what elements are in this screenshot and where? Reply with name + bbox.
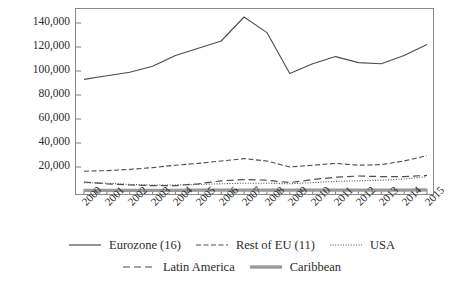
y-tick-label: 20,000 [14,160,70,172]
legend-item-latin-america[interactable]: Latin America [122,261,235,274]
y-axis-tick-labels: 20,00040,00060,00080,000100,000120,00014… [8,0,70,195]
chart-figure: Thousands of Euros 20,00040,00060,00080,… [0,0,463,286]
legend-label: USA [370,239,395,252]
y-tick-label: 100,000 [14,64,70,76]
legend-item-eurozone-16[interactable]: Eurozone (16) [68,239,181,252]
legend-row: Latin AmericaCaribbean [0,256,463,278]
y-tick-label: 80,000 [14,88,70,100]
legend-item-rest-of-eu-11[interactable]: Rest of EU (11) [195,239,315,252]
legend-swatch-dashed-icon [195,241,229,249]
legend-swatch-longdash-icon [122,263,156,271]
legend-swatch-thick-solid-icon [249,263,283,271]
legend-item-usa[interactable]: USA [329,239,395,252]
y-tick-label: 60,000 [14,112,70,124]
plot-area [75,8,434,195]
legend-swatch-solid-icon [68,241,102,249]
legend-label: Latin America [163,261,235,274]
legend-label: Caribbean [290,261,341,274]
y-tick-label: 40,000 [14,136,70,148]
legend-swatch-dotted-icon [329,241,363,249]
legend-label: Rest of EU (11) [236,239,315,252]
legend-item-caribbean[interactable]: Caribbean [249,261,341,274]
series-canvas [76,9,433,194]
series-line-eurozone-16 [84,17,427,79]
legend-row: Eurozone (16)Rest of EU (11)USA [0,234,463,256]
y-tick-label: 140,000 [14,16,70,28]
chart-legend: Eurozone (16)Rest of EU (11)USALatin Ame… [0,234,463,278]
legend-label: Eurozone (16) [109,239,181,252]
y-tick-label: 120,000 [14,40,70,52]
series-line-rest-of-eu-11 [84,156,427,172]
